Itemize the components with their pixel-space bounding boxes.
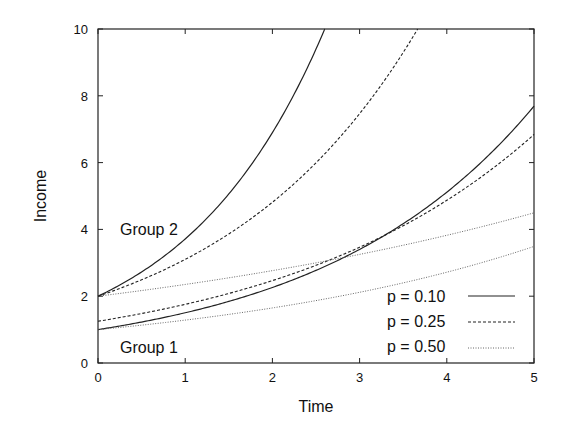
annotation-group-1: Group 1 bbox=[120, 339, 178, 356]
y-tick-label: 4 bbox=[81, 222, 88, 237]
x-tick-label: 0 bbox=[94, 370, 101, 385]
x-tick-label: 5 bbox=[530, 370, 537, 385]
y-tick-label: 6 bbox=[81, 156, 88, 171]
legend-label-p025: p = 0.25 bbox=[387, 313, 445, 330]
x-tick-label: 1 bbox=[182, 370, 189, 385]
y-tick-label: 0 bbox=[81, 356, 88, 371]
y-tick-label: 2 bbox=[81, 289, 88, 304]
y-tick-label: 10 bbox=[74, 22, 88, 37]
legend-label-p050: p = 0.50 bbox=[387, 338, 445, 355]
annotation-group-2: Group 2 bbox=[120, 221, 178, 238]
x-tick-label: 4 bbox=[443, 370, 450, 385]
y-tick-label: 8 bbox=[81, 89, 88, 104]
plot-curves bbox=[98, 29, 534, 330]
legend-label-p010: p = 0.10 bbox=[387, 288, 445, 305]
x-tick-label: 2 bbox=[269, 370, 276, 385]
x-tick-label: 3 bbox=[356, 370, 363, 385]
curve-group-2-p-0-10 bbox=[98, 29, 325, 296]
legend: p = 0.10 p = 0.25 p = 0.50 bbox=[387, 288, 515, 355]
plot-frame bbox=[98, 29, 534, 363]
axis-ticks: 0123450246810 bbox=[74, 22, 538, 385]
x-axis-label: Time bbox=[299, 398, 334, 415]
curve-group-2-p-0-25 bbox=[98, 29, 418, 296]
income-chart: 0123450246810 Time Income Group 2 Group … bbox=[0, 0, 566, 429]
y-axis-label: Income bbox=[32, 170, 49, 223]
